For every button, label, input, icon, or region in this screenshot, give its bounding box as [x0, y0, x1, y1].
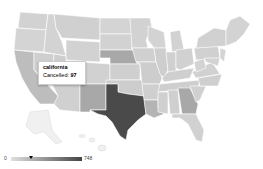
state-oregon[interactable]	[14, 28, 46, 52]
state-kansas[interactable]	[110, 64, 140, 80]
state-wyoming[interactable]	[66, 40, 100, 62]
state-ohio[interactable]	[176, 48, 194, 70]
state-michigan[interactable]	[170, 30, 184, 52]
legend-max-label: 748	[84, 155, 92, 161]
state-iowa[interactable]	[132, 48, 156, 62]
state-nebraska[interactable]	[100, 50, 138, 64]
state-indiana[interactable]	[166, 52, 176, 72]
tooltip-metric-value: 97	[71, 72, 77, 78]
state-new-england[interactable]	[226, 16, 250, 46]
legend-gradient-bar	[11, 157, 82, 161]
state-new-jersey[interactable]	[220, 48, 226, 62]
state-montana[interactable]	[54, 14, 100, 40]
state-new-mexico[interactable]	[80, 84, 106, 112]
state-hawaii[interactable]	[79, 135, 106, 152]
state-mississippi[interactable]	[158, 92, 168, 114]
state-florida[interactable]	[172, 114, 204, 142]
tooltip-state-name: california	[43, 64, 81, 72]
state-washington[interactable]	[18, 12, 48, 30]
state-tooltip: california Cancelled: 97	[38, 61, 86, 85]
state-north-dakota[interactable]	[100, 18, 132, 34]
tooltip-metric-row: Cancelled: 97	[43, 72, 81, 80]
state-arkansas[interactable]	[142, 84, 160, 100]
legend-min-label: 0	[4, 155, 7, 161]
tooltip-metric-label: Cancelled:	[43, 72, 69, 78]
legend-marker-icon	[29, 156, 33, 159]
state-alabama[interactable]	[168, 90, 180, 114]
state-wisconsin[interactable]	[148, 26, 166, 48]
state-new-york[interactable]	[196, 28, 226, 48]
state-south-dakota[interactable]	[100, 34, 132, 50]
state-alaska[interactable]	[26, 110, 62, 144]
color-legend: 0 748	[0, 152, 110, 164]
